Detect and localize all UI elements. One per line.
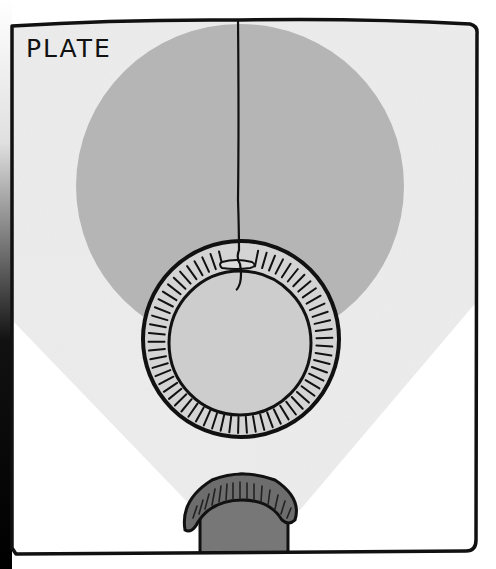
comic-panel-stage: PLATE: [0, 0, 496, 569]
panel-title: PLATE: [26, 36, 112, 61]
lamp: [184, 474, 296, 556]
panel-illustration: [0, 0, 496, 569]
